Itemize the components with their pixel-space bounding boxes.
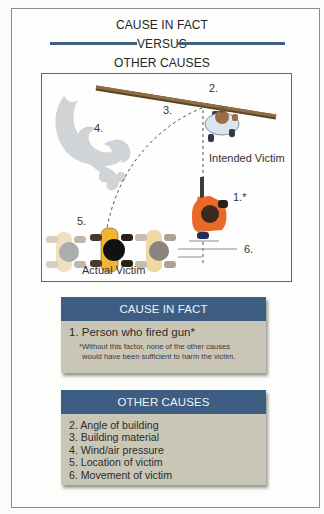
label-intended-victim: Intended Victim	[209, 152, 285, 164]
other-causes-panel: OTHER CAUSES 2. Angle of building 3. Bui…	[61, 390, 266, 485]
cause-in-fact-panel: CAUSE IN FACT 1. Person who fired gun* *…	[61, 297, 266, 373]
label-location: 5.	[77, 215, 86, 227]
label-shooter: 1.*	[233, 191, 246, 203]
movement-lines-icon	[178, 241, 237, 257]
title-rule-right	[177, 42, 285, 45]
label-wind: 4.	[94, 122, 103, 134]
other-cause-item: 4. Wind/air pressure	[69, 444, 172, 456]
other-causes-header: OTHER CAUSES	[61, 390, 266, 414]
scenario-diagram: 2. 3. 4. Intended Victim 1.* 5. 6. Actua…	[41, 73, 292, 282]
cause-in-fact-item: 1. Person who fired gun*	[69, 326, 195, 338]
cause-in-fact-header: CAUSE IN FACT	[61, 297, 266, 321]
label-building: 2.	[209, 82, 218, 94]
footnote-line-2: would have been sufficient to harm the v…	[79, 352, 264, 362]
actual-victim-ghost-left-icon	[46, 232, 86, 272]
title-other-causes: OTHER CAUSES	[0, 56, 324, 70]
cause-in-fact-footnote: *Without this factor, none of the other …	[79, 342, 264, 361]
label-movement: 6.	[244, 243, 253, 255]
other-cause-item: 6. Movement of victim	[69, 469, 172, 481]
shooter-icon	[192, 177, 228, 239]
title-cause-in-fact: CAUSE IN FACT	[0, 18, 324, 32]
other-cause-item: 3. Building material	[69, 431, 172, 443]
other-cause-item: 2. Angle of building	[69, 419, 172, 431]
other-cause-item: 5. Location of victim	[69, 456, 172, 468]
footnote-line-1: *Without this factor, none of the other …	[79, 342, 230, 351]
label-material: 3.	[163, 104, 172, 116]
label-actual-victim: Actual Victim	[82, 264, 145, 276]
other-causes-list: 2. Angle of building 3. Building materia…	[69, 419, 172, 481]
wind-swirl-icon	[55, 96, 130, 190]
